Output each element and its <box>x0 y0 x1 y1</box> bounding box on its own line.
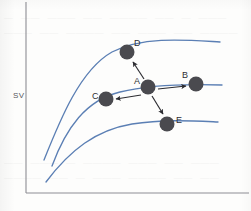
data-point-e <box>160 117 175 132</box>
curve-middle-curve <box>52 85 222 166</box>
curve-lower-curve <box>46 121 218 182</box>
curve-upper-curve <box>44 40 220 160</box>
data-point-c <box>99 92 114 107</box>
chart-curves <box>44 40 222 182</box>
point-label-e: E <box>176 115 182 125</box>
frank-starling-curve-chart <box>0 0 251 211</box>
chart-axes <box>26 2 249 193</box>
data-point-a <box>141 80 156 95</box>
point-label-b: B <box>182 70 188 80</box>
data-point-d <box>120 45 135 60</box>
point-label-a: A <box>134 76 140 86</box>
y-axis-label: SV <box>13 91 24 100</box>
arrow-A-to-E <box>152 96 163 114</box>
point-label-d: D <box>134 38 141 48</box>
data-point-b <box>189 77 204 92</box>
arrow-A-to-C <box>116 95 141 99</box>
point-label-c: C <box>92 91 99 101</box>
chart-point-markers <box>99 45 204 132</box>
figure-page: — —— ——— —— ———— —— — ——— —— ——— —— ————… <box>0 0 251 211</box>
